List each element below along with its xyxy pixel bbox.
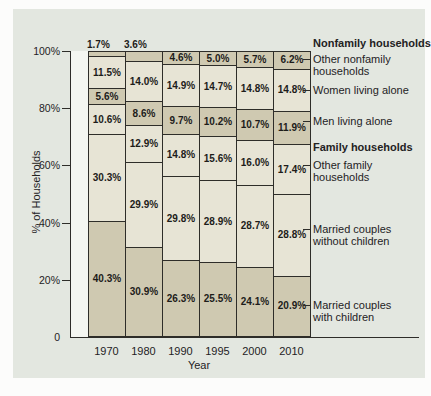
bar-segment: 5.0% (200, 52, 236, 66)
bar-segment: 8.6% (126, 102, 162, 126)
x-tick-label: 1990 (161, 345, 201, 357)
annotation-line: households (313, 171, 372, 184)
segment-value-label: 10.6% (93, 115, 121, 125)
bar-segment: 10.2% (200, 108, 236, 137)
annotation-dash (303, 121, 310, 122)
bar-segment: 30.9% (126, 248, 162, 336)
y-axis-title: % of Households (30, 132, 42, 252)
segment-value-label: 11.5% (93, 68, 121, 78)
annotation-dash (303, 165, 310, 166)
annotation-dash (303, 90, 310, 91)
bar-segment: 9.7% (163, 107, 199, 135)
annotation-line: Women living alone (313, 84, 409, 97)
segment-value-label: 30.9% (130, 287, 158, 297)
bar-segment: 17.4% (274, 145, 310, 194)
y-tick-mark (62, 51, 70, 52)
segment-value-label: 26.3% (167, 294, 195, 304)
category-header: Family households (313, 141, 413, 154)
segment-value-label: 3.6% (124, 39, 147, 50)
x-axis-line (70, 337, 419, 338)
segment-value-label: 5.7% (244, 55, 267, 65)
y-tick-label: 20% (20, 274, 60, 286)
annotation-line: with children (313, 311, 391, 324)
annotation-label: Other familyhouseholds (313, 159, 372, 184)
annotation-label: Other nonfamilyhouseholds (313, 53, 391, 78)
bar-segment: 14.8% (163, 135, 199, 177)
segment-value-label: 5.6% (96, 92, 119, 102)
bar-segment: 15.6% (200, 137, 236, 181)
annotation-line: Men living alone (313, 115, 393, 128)
annotation-line: Family households (313, 141, 413, 154)
segment-value-label: 25.5% (204, 294, 232, 304)
y-tick-mark (62, 280, 70, 281)
annotation-line: Married couples (313, 223, 391, 236)
bar-2010: 6.2%14.8%11.9%17.4%28.8%20.9% (273, 51, 311, 337)
segment-value-label: 28.7% (241, 221, 269, 231)
x-tick-label: 1995 (198, 345, 238, 357)
bar-segment: 24.1% (237, 268, 273, 336)
annotation-dash (303, 59, 310, 60)
plot-inner-strip (71, 51, 88, 337)
x-tick-label: 2000 (235, 345, 275, 357)
bar-segment: 28.7% (237, 186, 273, 268)
y-tick-mark (62, 108, 70, 109)
bar-segment: 5.6% (89, 89, 125, 105)
category-header: Nonfamily households (313, 37, 431, 50)
bar-segment: 29.9% (126, 163, 162, 248)
segment-value-label: 15.6% (204, 154, 232, 164)
bar-segment: 10.6% (89, 105, 125, 135)
y-tick-mark (62, 223, 70, 224)
bar-segment: 28.8% (274, 195, 310, 277)
segment-value-label: 12.9% (130, 139, 158, 149)
segment-value-label: 4.6% (170, 53, 193, 63)
annotation-line: Other family (313, 159, 372, 172)
segment-value-label: 10.7% (241, 120, 269, 130)
annotation-dash (303, 305, 310, 306)
bar-segment: 14.0% (126, 62, 162, 102)
segment-value-label: 28.9% (204, 217, 232, 227)
annotation-label: Married coupleswithout children (313, 223, 391, 248)
y-tick-label: 100% (20, 45, 60, 57)
segment-value-label: 17.4% (278, 165, 306, 175)
x-tick-label: 1970 (87, 345, 127, 357)
bar-1995: 5.0%14.7%10.2%15.6%28.9%25.5% (199, 51, 237, 337)
bar-segment: 12.9% (126, 126, 162, 163)
bar-segment: 30.3% (89, 135, 125, 221)
annotation-line: without children (313, 235, 391, 248)
bar-segment: 40.3% (89, 222, 125, 336)
segment-value-label: 6.2% (281, 55, 304, 65)
bar-segment: 29.8% (163, 177, 199, 262)
segment-value-label: 14.8% (278, 85, 306, 95)
segment-value-label: 24.1% (241, 297, 269, 307)
segment-value-label: 29.8% (167, 214, 195, 224)
segment-value-label: 14.9% (167, 81, 195, 91)
bar-segment: 4.6% (163, 52, 199, 65)
bar-segment: 20.9% (274, 277, 310, 336)
segment-value-label: 28.8% (278, 230, 306, 240)
y-axis-line (70, 51, 71, 338)
segment-value-label: 8.6% (133, 109, 156, 119)
bar-segment: 10.7% (237, 110, 273, 140)
bar-segment: 28.9% (200, 181, 236, 263)
segment-value-label: 30.3% (93, 173, 121, 183)
y-tick-label: 80% (20, 102, 60, 114)
segment-value-label: 14.8% (241, 84, 269, 94)
segment-value-label: 9.7% (170, 116, 193, 126)
bar-segment: 11.9% (274, 112, 310, 146)
y-tick-label: 0 (20, 331, 60, 343)
bar-segment: 26.3% (163, 261, 199, 336)
segment-value-label: 14.8% (167, 150, 195, 160)
annotation-label: Women living alone (313, 84, 409, 97)
household-composition-chart: 020%40%60%80%100% 1.7%11.5%5.6%10.6%30.3… (0, 0, 431, 396)
annotation-label: Married coupleswith children (313, 299, 391, 324)
bar-segment: 14.9% (163, 65, 199, 107)
segment-value-label: 16.0% (241, 158, 269, 168)
bar-segment: 11.5% (89, 57, 125, 90)
annotation-label: Men living alone (313, 115, 393, 128)
bar-1980: 3.6%14.0%8.6%12.9%29.9%30.9% (125, 51, 163, 337)
bar-segment: 14.7% (200, 66, 236, 108)
bar-2000: 5.7%14.8%10.7%16.0%28.7%24.1% (236, 51, 274, 337)
annotation-dash (303, 229, 310, 230)
x-axis-title: Year (159, 359, 239, 371)
annotation-line: households (313, 65, 391, 78)
